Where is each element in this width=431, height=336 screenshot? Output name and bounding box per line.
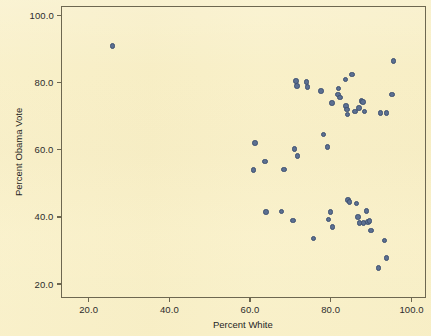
data-point — [391, 58, 396, 63]
data-point — [328, 209, 333, 214]
data-point — [110, 43, 115, 48]
y-tick-mark — [57, 283, 61, 284]
data-point — [356, 105, 361, 110]
data-point — [295, 153, 300, 158]
y-tick-mark — [57, 82, 61, 83]
y-tick-mark — [57, 15, 61, 16]
x-tick-mark — [411, 298, 412, 302]
y-tick-label: 20.0 — [35, 279, 54, 290]
plot-frame — [61, 6, 426, 298]
data-point — [355, 214, 360, 219]
x-tick-label: 20.0 — [79, 304, 98, 315]
data-point — [389, 92, 394, 97]
data-point — [349, 72, 354, 77]
data-point — [262, 159, 267, 164]
data-point — [263, 209, 268, 214]
data-point — [251, 167, 256, 172]
y-axis-title: Percent Obama Vote — [13, 107, 24, 195]
x-tick-label: 60.0 — [241, 304, 260, 315]
y-tick-label: 40.0 — [35, 211, 54, 222]
y-tick-label: 60.0 — [35, 144, 54, 155]
y-tick-mark — [57, 149, 61, 150]
data-point — [368, 228, 373, 233]
data-point — [384, 255, 389, 260]
x-axis-title: Percent White — [213, 319, 273, 330]
data-point — [329, 100, 334, 105]
data-point — [292, 146, 297, 151]
data-point — [325, 144, 330, 149]
data-point — [290, 218, 295, 223]
y-tick-label: 80.0 — [35, 77, 54, 88]
x-tick-label: 100.0 — [399, 304, 423, 315]
y-tick-mark — [57, 216, 61, 217]
scatter-plot-figure: 20.040.060.080.0100.0 20.040.060.080.010… — [0, 0, 431, 336]
data-point — [318, 88, 323, 93]
data-point — [360, 99, 365, 104]
x-tick-mark — [249, 298, 250, 302]
data-point — [378, 110, 383, 115]
data-point — [279, 209, 284, 214]
x-tick-mark — [330, 298, 331, 302]
data-point — [252, 140, 257, 145]
data-point — [281, 167, 286, 172]
data-point — [326, 217, 331, 222]
data-point — [347, 199, 352, 204]
data-point — [376, 265, 381, 270]
data-point — [367, 218, 372, 223]
data-point — [364, 208, 369, 213]
x-tick-label: 80.0 — [321, 304, 340, 315]
data-point — [343, 77, 348, 82]
x-tick-mark — [88, 298, 89, 302]
x-tick-label: 40.0 — [160, 304, 179, 315]
data-point — [294, 83, 299, 88]
x-tick-mark — [169, 298, 170, 302]
y-tick-label: 100.0 — [30, 10, 54, 21]
